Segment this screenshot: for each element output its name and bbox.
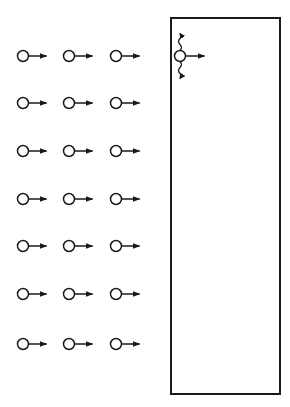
particle [111, 194, 140, 205]
particle [111, 146, 140, 157]
boundary-particle [175, 34, 205, 79]
particle [111, 51, 140, 62]
target-region-box [171, 18, 280, 394]
particle-circle-icon [64, 241, 75, 252]
particle-circle-icon [111, 194, 122, 205]
particle-circle-icon [64, 98, 75, 109]
particle [64, 98, 93, 109]
particle [64, 289, 93, 300]
particle-circle-icon [111, 51, 122, 62]
particle-grid [18, 51, 140, 350]
particle [64, 194, 93, 205]
particle-circle-icon [64, 194, 75, 205]
particle-circle-icon [64, 146, 75, 157]
wavy-arrow-down-icon [179, 62, 182, 79]
particle-circle-icon [175, 51, 186, 62]
particle [18, 339, 47, 350]
particle-circle-icon [18, 339, 29, 350]
particle [64, 339, 93, 350]
particle [18, 51, 47, 62]
particle [64, 146, 93, 157]
particle-circle-icon [111, 146, 122, 157]
particle-circle-icon [111, 339, 122, 350]
particle-circle-icon [18, 194, 29, 205]
particle [18, 194, 47, 205]
wavy-arrow-up-icon [179, 34, 182, 51]
particle-circle-icon [64, 289, 75, 300]
particle-circle-icon [18, 51, 29, 62]
particle [111, 98, 140, 109]
particle-circle-icon [18, 289, 29, 300]
particle [18, 289, 47, 300]
particle [111, 339, 140, 350]
particle-circle-icon [18, 241, 29, 252]
particle [111, 289, 140, 300]
particle-circle-icon [64, 51, 75, 62]
particle [18, 146, 47, 157]
particle [64, 51, 93, 62]
particle [18, 241, 47, 252]
particle [111, 241, 140, 252]
particle-circle-icon [111, 98, 122, 109]
particle-circle-icon [18, 98, 29, 109]
diagram-canvas [0, 0, 290, 407]
particle-circle-icon [111, 241, 122, 252]
particle-circle-icon [111, 289, 122, 300]
particle-circle-icon [18, 146, 29, 157]
particle-circle-icon [64, 339, 75, 350]
particle [18, 98, 47, 109]
particle [64, 241, 93, 252]
